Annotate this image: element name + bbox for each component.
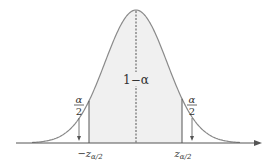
right-critical-label: zα/2 [174,148,192,161]
right-arrowhead-icon [190,136,194,141]
normal-distribution-diagram: 1−α α 2 α 2 −zα/2 zα/2 [0,0,269,168]
right-alpha: α [189,94,196,105]
right-tail-label: α 2 [187,94,197,117]
center-area-label: 1−α [123,73,149,87]
x-axis-arrow-icon [254,140,262,146]
left-critical-label: −zα/2 [77,148,103,161]
left-two: 2 [76,106,82,117]
left-arrowhead-icon [77,136,81,141]
right-two: 2 [189,106,195,117]
left-alpha: α [76,94,83,105]
